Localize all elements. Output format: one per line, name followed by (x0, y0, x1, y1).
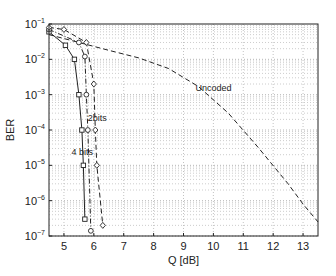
y-tick-label: 10−2 (25, 52, 45, 65)
annotations: Uncoded2bits4 bits (71, 83, 231, 157)
annotation-label: 4 bits (71, 147, 93, 157)
ber-chart: 5678910111213 10−110−210−310−410−510−610… (0, 0, 336, 276)
x-tick-label: 10 (207, 240, 219, 252)
y-axis-ticks: 10−110−210−310−410−510−610−7 (25, 17, 52, 242)
y-axis-label: BER (4, 119, 16, 142)
annotation-label: Uncoded (195, 83, 231, 93)
y-tick-label: 10−6 (25, 194, 45, 207)
x-tick-label: 6 (91, 240, 97, 252)
x-tick-label: 5 (61, 240, 67, 252)
x-tick-label: 7 (121, 240, 127, 252)
x-tick-label: 9 (180, 240, 186, 252)
x-tick-label: 12 (267, 240, 279, 252)
annotation-label: 2bits (88, 113, 108, 123)
x-tick-label: 11 (238, 240, 249, 252)
data-series (46, 24, 318, 233)
y-tick-label: 10−7 (25, 229, 45, 242)
x-tick-label: 13 (297, 240, 309, 252)
y-tick-label: 10−5 (25, 158, 45, 171)
x-tick-label: 8 (151, 240, 157, 252)
x-axis-label: Q [dB] (168, 254, 199, 266)
y-tick-label: 10−1 (25, 17, 45, 30)
y-tick-label: 10−4 (25, 123, 45, 136)
y-tick-label: 10−3 (25, 88, 45, 101)
